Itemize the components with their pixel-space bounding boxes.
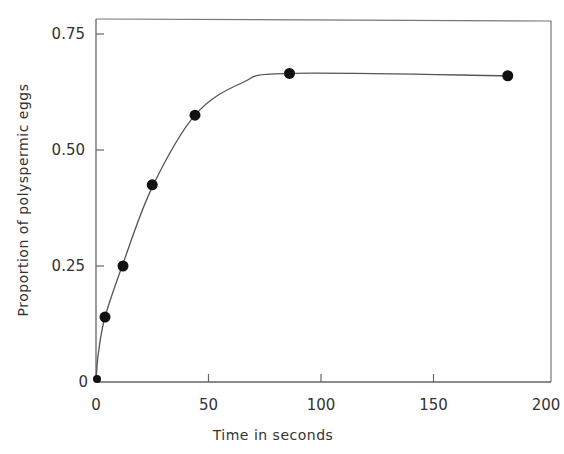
data-point: [118, 261, 129, 272]
x-tick-label: 50: [199, 396, 218, 414]
fit-curve: [96, 73, 508, 382]
y-tick-label: 0: [78, 373, 88, 391]
x-tick-label: 100: [307, 396, 336, 414]
x-tick-label: 150: [419, 396, 448, 414]
data-point: [100, 312, 111, 323]
axis-ticks: [96, 34, 434, 382]
y-axis-title: Proportion of polyspermic eggs: [15, 84, 31, 317]
data-point: [147, 179, 158, 190]
data-point: [284, 68, 295, 79]
data-point: [190, 110, 201, 121]
x-axis-title: Time in seconds: [212, 427, 334, 443]
x-tick-label: 0: [91, 396, 101, 414]
y-tick-label: 0.50: [52, 141, 85, 159]
data-point: [93, 375, 101, 383]
data-point: [502, 70, 513, 81]
tick-labels: 05010015020000.250.500.75: [52, 25, 561, 414]
y-tick-label: 0.25: [52, 257, 85, 275]
data-markers: [93, 68, 513, 383]
x-tick-label: 200: [532, 396, 561, 414]
y-tick-label: 0.75: [52, 25, 85, 43]
chart: 05010015020000.250.500.75 Time in second…: [0, 0, 564, 454]
